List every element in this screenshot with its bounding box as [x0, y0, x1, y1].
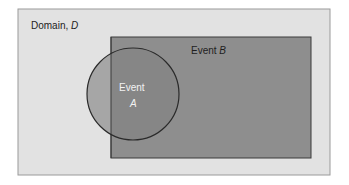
- venn-diagram: Domain, D Event B Event A: [0, 0, 349, 185]
- event-a-label: Event: [119, 82, 145, 93]
- domain-label: Domain, D: [31, 20, 78, 31]
- event-b-label: Event B: [191, 45, 226, 56]
- event-a-var: A: [129, 98, 137, 109]
